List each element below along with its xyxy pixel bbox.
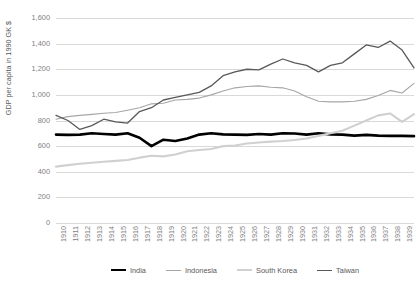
x-axis-tick-label: 1913 <box>95 226 104 258</box>
x-axis-tick-label: 1931 <box>310 226 319 258</box>
legend-line-swatch <box>237 269 252 271</box>
x-axis-tick-labels: 1910191119121913191419151916191719181919… <box>56 226 414 260</box>
x-axis-tick-label: 1936 <box>369 226 378 258</box>
y-axis-tick-label: 0 <box>6 219 50 227</box>
y-axis-title: GDP per capita in 1990 GK $ <box>4 0 13 148</box>
x-axis-tick-label: 1934 <box>346 226 355 258</box>
x-axis-tick-label: 1911 <box>71 226 80 258</box>
x-axis-tick-label: 1933 <box>334 226 343 258</box>
y-axis-tick-label: 200 <box>6 193 50 201</box>
y-axis-tick-label: 400 <box>6 168 50 176</box>
y-axis-tick-label: 600 <box>6 142 50 150</box>
x-axis-tick-label: 1915 <box>119 226 128 258</box>
x-axis-tick-label: 1918 <box>155 226 164 258</box>
x-axis-tick-label: 1937 <box>381 226 390 258</box>
plot-area: 02004006008001,0001,2001,4001,600 <box>56 18 414 223</box>
legend-line-swatch <box>111 269 126 271</box>
x-axis-tick-label: 1926 <box>250 226 259 258</box>
legend-item-indonesia[interactable]: Indonesia <box>166 266 217 275</box>
x-axis-tick-label: 1935 <box>358 226 367 258</box>
legend-label: Indonesia <box>185 266 217 275</box>
x-axis-tick-label: 1922 <box>202 226 211 258</box>
x-axis-tick-label: 1929 <box>286 226 295 258</box>
legend-label: India <box>130 266 146 275</box>
x-axis-tick-label: 1928 <box>274 226 283 258</box>
x-axis-tick-label: 1930 <box>298 226 307 258</box>
x-axis-tick-label: 1917 <box>143 226 152 258</box>
x-axis-tick-label: 1912 <box>83 226 92 258</box>
x-axis-tick-label: 1927 <box>262 226 271 258</box>
x-axis-tick-label: 1919 <box>167 226 176 258</box>
legend-line-swatch <box>317 270 332 271</box>
x-axis-tick-label: 1924 <box>226 226 235 258</box>
legend-label: Taiwan <box>336 266 359 275</box>
y-axis-tick-label: 1,400 <box>6 40 50 48</box>
y-axis-tick-label: 1,200 <box>6 65 50 73</box>
x-axis-tick-label: 1925 <box>238 226 247 258</box>
y-axis-tick-label: 1,000 <box>6 91 50 99</box>
legend-item-south-korea[interactable]: South Korea <box>237 266 297 275</box>
y-axis-tick-label: 1,600 <box>6 14 50 22</box>
x-axis-tick-label: 1910 <box>59 226 68 258</box>
y-axis-tick-label: 800 <box>6 117 50 125</box>
chart-legend: IndiaIndonesiaSouth KoreaTaiwan <box>56 263 414 277</box>
gridline <box>56 223 414 224</box>
x-axis-tick-label: 1916 <box>131 226 140 258</box>
x-axis-tick-label: 1920 <box>179 226 188 258</box>
x-axis-tick-label: 1921 <box>190 226 199 258</box>
series-line-taiwan <box>56 41 414 129</box>
gdp-per-capita-line-chart: GDP per capita in 1990 GK $ 020040060080… <box>0 0 416 283</box>
series-line-indonesia <box>56 83 414 119</box>
x-axis-tick-label: 1923 <box>214 226 223 258</box>
legend-item-india[interactable]: India <box>111 266 146 275</box>
series-line-india <box>56 133 414 146</box>
legend-item-taiwan[interactable]: Taiwan <box>317 266 359 275</box>
x-axis-tick-label: 1938 <box>393 226 402 258</box>
legend-line-swatch <box>166 270 181 271</box>
x-axis-tick-label: 1939 <box>405 226 414 258</box>
legend-label: South Korea <box>256 266 297 275</box>
x-axis-tick-label: 1932 <box>322 226 331 258</box>
x-axis-tick-label: 1914 <box>107 226 116 258</box>
series-line-south-korea <box>56 113 414 166</box>
data-series-layer <box>56 18 414 223</box>
